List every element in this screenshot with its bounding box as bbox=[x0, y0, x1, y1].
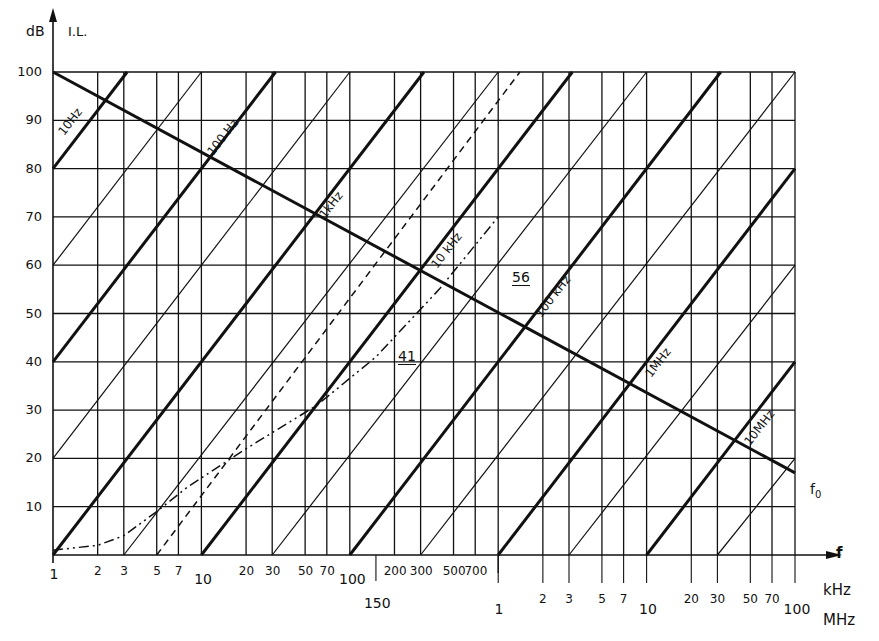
f0-label: f0 bbox=[810, 482, 821, 500]
y-tick-label: 80 bbox=[25, 162, 42, 175]
insertion-loss-chart bbox=[0, 0, 879, 641]
x-tick-label-mhz: 100 bbox=[784, 602, 811, 616]
y-tick-label: 50 bbox=[25, 307, 42, 320]
x-tick-label-mhz: 3 bbox=[565, 593, 573, 605]
x-tick-label-mhz: 50 bbox=[743, 593, 758, 605]
x-tick-label-khz: 3 bbox=[120, 565, 128, 577]
x-tick-label-mhz: 10 bbox=[639, 602, 657, 616]
x-tick-label-mhz: 5 bbox=[598, 593, 606, 605]
x-tick-label-mhz: 7 bbox=[620, 593, 628, 605]
y-tick-label: 100 bbox=[17, 65, 42, 78]
x-tick-label-mhz: 30 bbox=[710, 593, 725, 605]
y-tick-label: 10 bbox=[25, 500, 42, 513]
series-f0 bbox=[53, 72, 795, 473]
x-axis-unit-khz: kHz bbox=[823, 583, 851, 598]
x-tick-label-khz: 5 bbox=[153, 565, 161, 577]
y-tick-label: 20 bbox=[25, 451, 42, 464]
x-tick-label-mhz: 70 bbox=[764, 593, 779, 605]
x-tick-label-mhz: 1 bbox=[494, 602, 503, 616]
x-tick-label-khz: 300 bbox=[410, 565, 433, 577]
x-tick-label-khz: 700 bbox=[464, 565, 487, 577]
x-tick-label-khz: 30 bbox=[265, 565, 280, 577]
annotation-56: 56 bbox=[512, 270, 530, 286]
x-tick-label-khz: 20 bbox=[239, 565, 254, 577]
x-axis-variable-label: f bbox=[836, 546, 843, 561]
x-tick-label-khz: 100 bbox=[339, 572, 366, 586]
y-tick-label: 60 bbox=[25, 258, 42, 271]
x-axis-unit-mhz: MHz bbox=[823, 613, 855, 628]
x-tick-label-khz: 2 bbox=[94, 565, 102, 577]
y-tick-label: 40 bbox=[25, 355, 42, 368]
y-tick-label: 30 bbox=[25, 403, 42, 416]
y-axis-unit-label: dB bbox=[26, 24, 45, 38]
y-axis-arrow-icon bbox=[49, 8, 57, 22]
x-tick-label-khz: 7 bbox=[175, 565, 183, 577]
x-tick-label-khz: 500 bbox=[443, 565, 466, 577]
x-tick-label-mhz: 2 bbox=[539, 593, 547, 605]
x-tick-label-khz: 10 bbox=[194, 572, 212, 586]
x-tick-label-khz: 200 bbox=[384, 565, 407, 577]
x-tick-label-khz: 1 bbox=[49, 567, 58, 581]
y-axis-quantity-label: I.L. bbox=[68, 25, 87, 38]
x-tick-label-mhz: 20 bbox=[684, 593, 699, 605]
x-tick-label-khz: 50 bbox=[298, 565, 313, 577]
annotation-41: 41 bbox=[398, 349, 416, 365]
x-tick-label-khz: 70 bbox=[320, 565, 335, 577]
y-tick-label: 70 bbox=[25, 210, 42, 223]
x-tick-label-150: 150 bbox=[364, 596, 391, 610]
y-tick-label: 90 bbox=[25, 113, 42, 126]
